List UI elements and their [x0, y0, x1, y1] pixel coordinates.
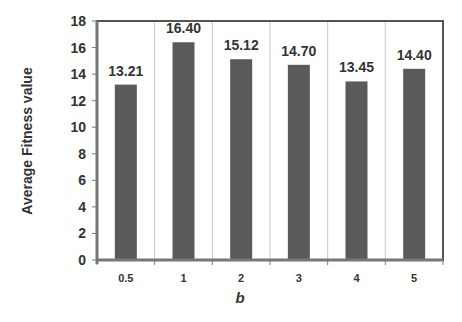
x-tick-label: 1 — [180, 272, 186, 284]
data-label: 15.12 — [224, 37, 259, 53]
y-axis-title: Average Fitness value — [19, 67, 35, 215]
data-label: 16.40 — [166, 20, 201, 36]
x-tick-label: 5 — [411, 272, 417, 284]
y-tick-label: 2 — [78, 225, 86, 241]
y-tick-label: 4 — [78, 199, 86, 215]
x-axis-title: b — [235, 289, 244, 306]
data-label: 14.70 — [281, 43, 316, 59]
data-label: 13.45 — [339, 59, 374, 75]
bar-4 — [346, 81, 368, 260]
y-tick-label: 10 — [70, 119, 86, 135]
bar-chart: 024681012141618 0.512345 13.2116.4015.12… — [0, 0, 462, 322]
x-tick-label: 0.5 — [118, 272, 133, 284]
data-label: 14.40 — [397, 47, 432, 63]
y-tick-label: 12 — [70, 93, 86, 109]
x-axis: 0.512345 — [97, 260, 443, 284]
bar-2 — [230, 59, 252, 260]
bar-5 — [403, 69, 425, 260]
bar-3 — [288, 65, 310, 260]
y-tick-label: 6 — [78, 172, 86, 188]
x-tick-label: 3 — [296, 272, 302, 284]
y-axis: 024681012141618 — [70, 13, 97, 268]
bar-1 — [173, 42, 195, 260]
y-tick-label: 8 — [78, 146, 86, 162]
y-tick-label: 0 — [78, 252, 86, 268]
x-tick-label: 2 — [238, 272, 244, 284]
x-tick-label: 4 — [353, 272, 360, 284]
y-tick-label: 18 — [70, 13, 86, 29]
y-tick-label: 16 — [70, 40, 86, 56]
y-tick-label: 14 — [70, 66, 86, 82]
bar-0.5 — [115, 85, 137, 260]
data-label: 13.21 — [108, 63, 143, 79]
